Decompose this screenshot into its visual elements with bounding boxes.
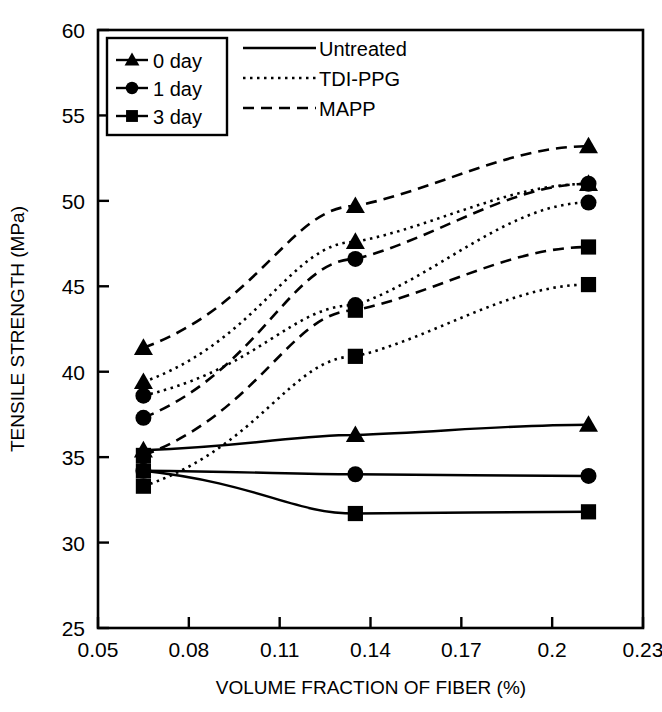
y-tick-label: 45 [62,275,85,298]
y-tick-label: 60 [62,19,85,42]
y-tick-label: 30 [62,532,85,555]
y-axis-label: TENSILE STRENGTH (MPa) [7,206,28,452]
legend-label: 1 day [153,78,202,100]
x-tick-label: 0.11 [260,638,299,661]
y-tick-label: 40 [62,361,85,384]
legend-label: TDI-PPG [319,68,400,90]
y-tick-label: 50 [62,190,85,213]
x-axis-label: VOLUME FRACTION OF FIBER (%) [216,677,526,698]
legend-label: Untreated [319,38,407,60]
circle-marker [347,297,363,313]
x-tick-label: 0.23 [623,638,662,661]
x-tick-label: 0.14 [350,638,391,661]
x-tick-label: 0.2 [538,638,567,661]
circle-marker [581,195,597,211]
square-marker [348,349,363,364]
square-marker [136,463,151,478]
x-tick-label: 0.08 [168,638,209,661]
circle-marker [347,251,363,267]
y-tick-label: 25 [62,617,85,640]
square-marker [581,504,596,519]
square-marker [348,506,363,521]
square-marker [126,110,138,122]
circle-marker [581,468,597,484]
circle-marker [126,82,138,94]
circle-marker [347,466,363,482]
x-tick-label: 0.05 [78,638,119,661]
square-marker [581,239,596,254]
square-marker [136,479,151,494]
circle-marker [135,388,151,404]
legend-label: 3 day [153,106,202,128]
chart-figure: 0.050.080.110.140.170.20.23 253035404550… [0,0,662,712]
square-marker [581,277,596,292]
y-tick-label: 55 [62,104,85,127]
legend-label: MAPP [319,98,376,120]
x-tick-label: 0.17 [441,638,482,661]
legend-label: 0 day [153,50,202,72]
tensile-strength-line-chart: 0.050.080.110.140.170.20.23 253035404550… [0,0,662,712]
y-tick-label: 35 [62,446,85,469]
circle-marker [135,410,151,426]
